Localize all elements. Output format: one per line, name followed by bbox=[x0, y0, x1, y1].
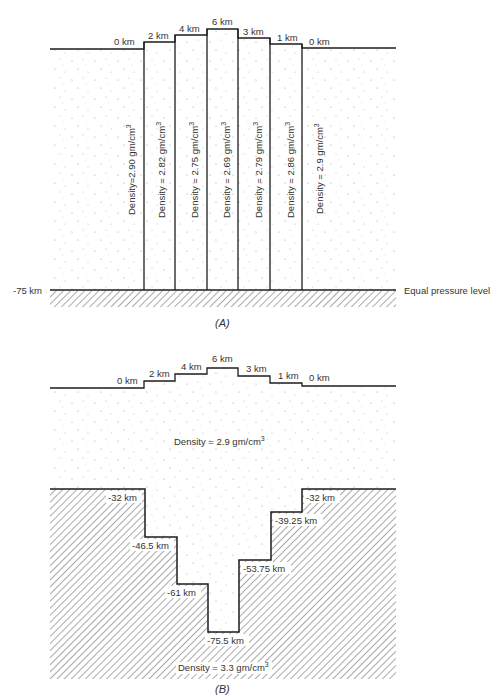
svg-text:Density=2.90 gm/cm3: Density=2.90 gm/cm3 bbox=[125, 124, 137, 215]
panel-a-surface-label: 3 km bbox=[243, 26, 264, 37]
svg-text:Density = 2.69 gm/cm3: Density = 2.69 gm/cm3 bbox=[220, 122, 232, 218]
panel-a-surface-label: 6 km bbox=[212, 16, 233, 27]
panel-b-caption: (B) bbox=[215, 683, 230, 695]
panel-b: 0 km 2 km 4 km 6 km 3 km 1 km 0 km Densi… bbox=[50, 353, 396, 695]
panel-b-surface-label: 0 km bbox=[309, 372, 330, 383]
root-depth-label: -53.75 km bbox=[243, 563, 285, 574]
density-label: Density = 2.69 gm/cm bbox=[221, 126, 232, 218]
panel-a-depth-label: -75 km bbox=[13, 285, 42, 296]
panel-b-mantle-density-label: Density = 3.3 gm/cm3 bbox=[178, 661, 269, 673]
panel-a: 0 km 2 km 4 km 6 km 3 km 1 km 0 km Densi… bbox=[13, 16, 490, 329]
panel-a-surface-label: 0 km bbox=[114, 36, 135, 47]
panel-b-surface-label: 0 km bbox=[117, 375, 138, 386]
svg-text:Density = 2.79 gm/cm3: Density = 2.79 gm/cm3 bbox=[252, 122, 264, 218]
density-label: Density = 2.9 gm/cm bbox=[314, 127, 325, 214]
panel-a-surface-label: 1 km bbox=[277, 32, 298, 43]
density-label: Density = 2.79 gm/cm bbox=[253, 126, 264, 218]
svg-text:Density = 2.9 gm/cm3: Density = 2.9 gm/cm3 bbox=[313, 123, 325, 214]
panel-a-caption: (A) bbox=[215, 317, 230, 329]
root-depth-label: -61 km bbox=[167, 587, 196, 598]
root-depth-label: -75.5 km bbox=[207, 635, 244, 646]
panel-b-surface-label: 2 km bbox=[149, 368, 170, 379]
density-label: Density=2.90 gm/cm bbox=[126, 128, 137, 215]
density-label: Density = 2.75 gm/cm bbox=[189, 126, 200, 218]
panel-a-surface-label: 4 km bbox=[179, 23, 200, 34]
density-label: Density = 2.82 gm/cm bbox=[156, 126, 167, 218]
density-label: Density = 2.86 gm/cm bbox=[285, 126, 296, 218]
isostasy-figure: 0 km 2 km 4 km 6 km 3 km 1 km 0 km Densi… bbox=[0, 0, 501, 697]
root-depth-label: -32 km bbox=[306, 492, 335, 503]
panel-b-surface-label: 4 km bbox=[181, 361, 202, 372]
panel-b-crust-density-label: Density = 2.9 gm/cm3 bbox=[174, 435, 265, 447]
panel-a-mantle-hatch bbox=[50, 291, 396, 307]
panel-a-surface-label: 2 km bbox=[148, 30, 169, 41]
root-depth-label: -39.25 km bbox=[275, 515, 317, 526]
panel-a-equal-pressure-label: Equal pressure level bbox=[404, 285, 490, 296]
root-depth-label: -32 km bbox=[108, 492, 137, 503]
svg-text:Density = 2.86 gm/cm3: Density = 2.86 gm/cm3 bbox=[284, 122, 296, 218]
svg-text:Density = 2.82 gm/cm3: Density = 2.82 gm/cm3 bbox=[155, 122, 167, 218]
panel-b-surface-label: 3 km bbox=[246, 363, 267, 374]
root-depth-label: -46.5 km bbox=[132, 540, 169, 551]
panel-b-surface-label: 6 km bbox=[212, 353, 233, 364]
svg-text:Density = 2.75 gm/cm3: Density = 2.75 gm/cm3 bbox=[188, 122, 200, 218]
panel-a-surface-label: 0 km bbox=[309, 36, 330, 47]
panel-b-surface-label: 1 km bbox=[278, 370, 299, 381]
